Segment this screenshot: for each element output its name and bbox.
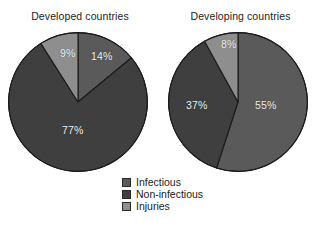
legend-swatch-icon-infectious <box>122 178 131 187</box>
legend-item-infectious: Infectious <box>122 177 203 188</box>
slice-label-developed-injuries: 9% <box>60 47 75 59</box>
legend-label-non-infectious: Non-infectious <box>136 189 203 200</box>
pie-chart-developed-svg <box>8 32 148 172</box>
legend: Infectious Non-infectious Injuries <box>122 177 203 212</box>
legend-swatch-icon-injuries <box>122 202 131 211</box>
slice-label-developed-infectious: 14% <box>91 50 112 62</box>
slice-label-developing-non-infectious: 37% <box>186 99 207 111</box>
legend-label-injuries: Injuries <box>136 201 170 212</box>
figure-root: Developed countries Developing countries… <box>0 0 321 225</box>
slice-label-developing-infectious: 55% <box>255 99 276 111</box>
slice-label-developing-injuries: 8% <box>221 38 236 50</box>
legend-label-infectious: Infectious <box>136 177 181 188</box>
legend-swatch-icon-non-infectious <box>122 190 131 199</box>
chart-title-developed: Developed countries <box>0 10 160 22</box>
chart-title-developing: Developing countries <box>160 10 321 22</box>
legend-item-non-infectious: Non-infectious <box>122 189 203 200</box>
legend-item-injuries: Injuries <box>122 201 203 212</box>
slice-label-developed-non-infectious: 77% <box>62 124 83 136</box>
pie-chart-developed <box>8 32 148 172</box>
